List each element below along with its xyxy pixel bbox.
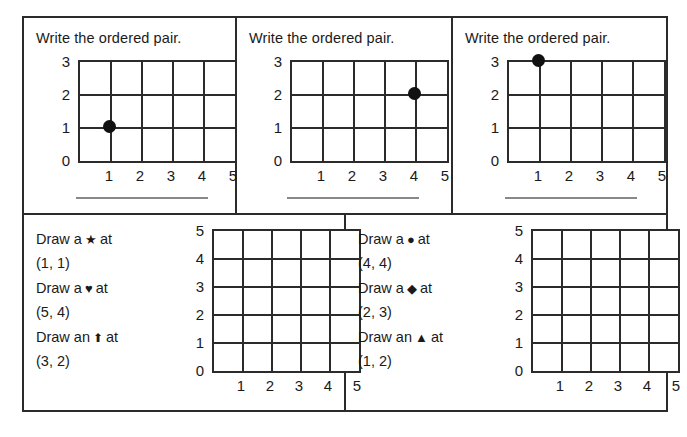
plotted-point	[408, 87, 421, 100]
y-axis-tick-label: 1	[509, 335, 523, 350]
y-axis-tick-label: 4	[190, 251, 204, 266]
plot-task-mid: at	[418, 231, 430, 247]
plot-task-instruction: Draw a★at	[36, 229, 171, 253]
y-axis-tick-label: 0	[190, 363, 204, 378]
plot-task-lead: Draw a	[36, 280, 82, 296]
x-axis-tick-label: 5	[655, 168, 669, 183]
plot-task-coordinates: (4, 4)	[358, 253, 493, 277]
answer-line-3[interactable]	[505, 197, 637, 199]
plot-task-coordinates: (5, 4)	[36, 302, 171, 326]
plot-task-mid: at	[100, 231, 112, 247]
answer-line-2[interactable]	[287, 197, 419, 199]
grid-line-vertical	[415, 62, 417, 161]
y-axis-tick-label: 2	[268, 87, 282, 102]
plotted-point	[532, 54, 545, 67]
plot-task-lead: Draw a	[358, 231, 404, 247]
grid-line-vertical	[384, 62, 386, 161]
grid-line-horizontal	[509, 94, 664, 96]
top-panel-row: Write the ordered pair. 012312345 Write …	[24, 18, 666, 213]
x-axis-tick-label: 3	[611, 378, 625, 393]
grid-line-vertical	[141, 62, 143, 161]
plot-task-mid: at	[431, 329, 443, 345]
y-axis-tick-label: 2	[56, 87, 70, 102]
exercise-panel-1: Write the ordered pair. 012312345	[24, 18, 237, 213]
grid-line-horizontal	[292, 127, 447, 129]
triangle-icon: ▲	[412, 331, 431, 344]
x-axis-tick-label: 1	[234, 378, 248, 393]
plot-task-instruction: Draw an▲at	[358, 327, 493, 351]
grid-line-vertical	[110, 62, 112, 161]
grid-line-vertical	[648, 231, 650, 371]
x-axis-tick-label: 1	[102, 168, 116, 183]
grid-line-horizontal	[214, 314, 359, 316]
y-axis-tick-label: 3	[190, 279, 204, 294]
x-axis-tick-label: 3	[164, 168, 178, 183]
grid-line-vertical	[632, 62, 634, 161]
plot-task: Draw a●at(4, 4)	[358, 229, 493, 276]
plot-task-instruction: Draw a◆at	[358, 278, 493, 302]
plot-task-mid: at	[420, 280, 432, 296]
plot-task-lead: Draw a	[36, 231, 82, 247]
plot-task: Draw a♥at(5, 4)	[36, 278, 171, 325]
grid-line-horizontal	[214, 258, 359, 260]
x-axis-tick-label: 4	[624, 168, 638, 183]
grid-line-vertical	[172, 62, 174, 161]
answer-line-1[interactable]	[76, 197, 208, 199]
x-axis-tick-label: 1	[531, 168, 545, 183]
plot-task: Draw a◆at(2, 3)	[358, 278, 493, 325]
grid-line-horizontal	[509, 127, 664, 129]
grid-line-horizontal	[533, 342, 678, 344]
plotted-point	[103, 120, 116, 133]
grid-line-horizontal	[214, 342, 359, 344]
grid-line-vertical	[601, 62, 603, 161]
grid-line-vertical	[203, 62, 205, 161]
y-axis-tick-label: 0	[485, 153, 499, 168]
plot-task-lead: Draw a	[358, 280, 404, 296]
plot-task: Draw an⬆at(3, 2)	[36, 327, 171, 374]
prompt-text-1: Write the ordered pair.	[36, 30, 182, 46]
arrow-up-icon: ⬆	[90, 332, 106, 344]
grid-line-vertical	[570, 62, 572, 161]
x-axis-tick-label: 2	[582, 378, 596, 393]
x-axis-tick-label: 4	[640, 378, 654, 393]
grid-line-vertical	[329, 231, 331, 371]
prompt-text-2: Write the ordered pair.	[249, 30, 395, 46]
plot-task-coordinates: (2, 3)	[358, 302, 493, 326]
plot-task: Draw an▲at(1, 2)	[358, 327, 493, 374]
circle-icon: ●	[404, 233, 418, 246]
grid-line-vertical	[271, 231, 273, 371]
grid-line-vertical	[353, 62, 355, 161]
heart-icon: ♥	[82, 282, 96, 295]
plot-task: Draw a★at(1, 1)	[36, 229, 171, 276]
grid-line-vertical	[619, 231, 621, 371]
y-axis-tick-label: 1	[268, 120, 282, 135]
x-axis-tick-label: 2	[133, 168, 147, 183]
plot-task-lead: Draw an	[36, 329, 90, 345]
y-axis-tick-label: 5	[509, 223, 523, 238]
x-axis-tick-label: 2	[345, 168, 359, 183]
grid-area	[290, 60, 449, 163]
y-axis-tick-label: 0	[56, 153, 70, 168]
y-axis-tick-label: 0	[509, 363, 523, 378]
exercise-panel-2: Write the ordered pair. 012312345	[237, 18, 453, 213]
x-axis-tick-label: 4	[195, 168, 209, 183]
y-axis-tick-label: 2	[485, 87, 499, 102]
plot-task-coordinates: (1, 1)	[36, 253, 171, 277]
worksheet-sheet: Write the ordered pair. 012312345 Write …	[22, 16, 668, 412]
grid-line-horizontal	[533, 258, 678, 260]
x-axis-tick-label: 3	[593, 168, 607, 183]
x-axis-tick-label: 3	[376, 168, 390, 183]
y-axis-tick-label: 1	[56, 120, 70, 135]
x-axis-tick-label: 4	[407, 168, 421, 183]
y-axis-tick-label: 2	[190, 307, 204, 322]
y-axis-tick-label: 3	[56, 54, 70, 69]
y-axis-tick-label: 3	[485, 54, 499, 69]
grid-line-horizontal	[533, 286, 678, 288]
x-axis-tick-label: 2	[263, 378, 277, 393]
grid-area	[78, 60, 237, 163]
plot-task-coordinates: (3, 2)	[36, 351, 171, 375]
x-axis-tick-label: 5	[438, 168, 452, 183]
grid-line-horizontal	[292, 94, 447, 96]
grid-line-vertical	[590, 231, 592, 371]
y-axis-tick-label: 2	[509, 307, 523, 322]
